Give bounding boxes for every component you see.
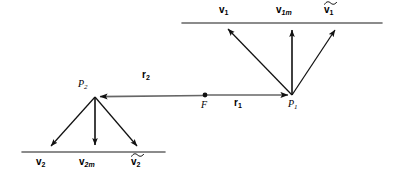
label-r1: r1 <box>234 98 242 108</box>
vector-v1-arrow <box>228 29 292 95</box>
label-v2-tilde: v2 <box>131 157 140 167</box>
focus-point-dot <box>203 93 208 98</box>
label-v1m: v1m <box>276 5 292 15</box>
label-v1-tilde: v1 <box>324 5 333 15</box>
physics-vector-diagram: v1 v1m v1 v2 v2m v2 <box>0 0 400 178</box>
vector-v2-tilde-arrow <box>95 97 137 146</box>
label-r2: r2 <box>142 70 150 80</box>
vector-v2-arrow <box>51 97 95 146</box>
vector-r2-arrow <box>100 96 205 97</box>
label-v1: v1 <box>219 5 228 15</box>
vector-v1-tilde-arrow <box>292 30 335 95</box>
diagram-canvas <box>0 0 400 178</box>
label-p1: P1 <box>288 99 298 109</box>
label-focus: F <box>201 100 207 110</box>
label-v2: v2 <box>36 157 45 167</box>
label-v2m: v2m <box>79 157 95 167</box>
label-p2: P2 <box>78 79 88 89</box>
